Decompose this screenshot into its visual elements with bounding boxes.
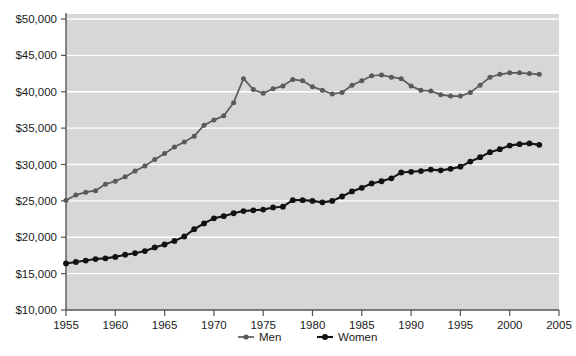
- data-point: [448, 166, 454, 172]
- y-tick-label: $10,000: [15, 304, 57, 316]
- legend-label: Women: [338, 331, 377, 343]
- data-point: [389, 75, 394, 80]
- data-point: [458, 164, 464, 170]
- data-point: [477, 154, 483, 160]
- data-point: [93, 188, 98, 193]
- data-point: [300, 197, 306, 203]
- data-point: [359, 78, 364, 83]
- data-point: [408, 169, 414, 175]
- data-point: [172, 145, 177, 150]
- data-point: [527, 71, 532, 76]
- data-point: [73, 259, 79, 265]
- y-tick-label: $25,000: [15, 195, 57, 207]
- x-tick-label: 1990: [398, 319, 424, 331]
- x-tick-label: 1965: [152, 319, 178, 331]
- x-tick-label: 1985: [349, 319, 375, 331]
- data-point: [290, 197, 296, 203]
- data-point: [468, 90, 473, 95]
- data-point: [221, 113, 226, 118]
- data-point: [300, 78, 305, 83]
- data-point: [507, 70, 512, 75]
- data-point: [497, 146, 503, 152]
- data-point: [349, 83, 354, 88]
- data-point: [438, 167, 444, 173]
- data-point: [260, 207, 266, 213]
- data-point: [527, 141, 533, 147]
- data-point: [211, 118, 216, 123]
- data-point: [467, 159, 473, 165]
- data-point: [507, 143, 513, 149]
- x-tick-label: 1975: [250, 319, 276, 331]
- data-point: [418, 88, 423, 93]
- y-tick-label: $30,000: [15, 159, 57, 171]
- data-point: [310, 198, 316, 204]
- data-point: [379, 73, 384, 78]
- data-point: [399, 76, 404, 81]
- data-point: [123, 174, 128, 179]
- data-point: [241, 208, 247, 214]
- data-point: [359, 185, 365, 191]
- y-tick-label: $15,000: [15, 268, 57, 280]
- data-point: [428, 167, 434, 173]
- chart-canvas: $10,000$15,000$20,000$25,000$30,000$35,0…: [0, 0, 576, 356]
- data-point: [320, 88, 325, 93]
- data-point: [192, 134, 197, 139]
- data-point: [152, 157, 157, 162]
- data-point: [201, 221, 207, 227]
- y-tick-label: $35,000: [15, 122, 57, 134]
- y-tick-label: $20,000: [15, 231, 57, 243]
- data-point: [132, 250, 138, 256]
- data-point: [369, 181, 375, 187]
- data-point: [487, 75, 492, 80]
- data-point: [329, 198, 335, 204]
- data-point: [83, 258, 89, 264]
- data-point: [478, 83, 483, 88]
- data-point: [261, 91, 266, 96]
- data-point: [162, 151, 167, 156]
- x-tick-label: 1955: [53, 319, 79, 331]
- data-point: [330, 91, 335, 96]
- data-point: [280, 204, 286, 210]
- data-point: [517, 141, 523, 147]
- data-point: [250, 207, 256, 213]
- data-point: [438, 92, 443, 97]
- data-point: [536, 142, 542, 148]
- legend-marker: [243, 334, 248, 339]
- data-point: [142, 163, 147, 168]
- data-point: [537, 72, 542, 77]
- x-tick-label: 2005: [546, 319, 572, 331]
- data-point: [339, 194, 345, 200]
- x-tick-label: 2000: [497, 319, 523, 331]
- data-point: [122, 252, 128, 258]
- data-point: [319, 199, 325, 205]
- data-point: [231, 210, 237, 216]
- x-tick-label: 1970: [201, 319, 227, 331]
- x-tick-label: 1980: [300, 319, 326, 331]
- y-tick-label: $50,000: [15, 13, 57, 25]
- data-point: [231, 100, 236, 105]
- data-point: [517, 70, 522, 75]
- data-point: [379, 178, 385, 184]
- data-point: [290, 77, 295, 82]
- data-point: [133, 169, 138, 174]
- data-point: [271, 86, 276, 91]
- data-point: [448, 94, 453, 99]
- data-point: [418, 168, 424, 174]
- y-tick-label: $40,000: [15, 86, 57, 98]
- data-point: [113, 179, 118, 184]
- y-tick-label: $45,000: [15, 49, 57, 61]
- plot-area-background: [66, 14, 559, 310]
- data-point: [103, 182, 108, 187]
- legend-marker: [322, 334, 328, 340]
- data-point: [310, 84, 315, 89]
- data-point: [280, 83, 285, 88]
- line-chart: $10,000$15,000$20,000$25,000$30,000$35,0…: [0, 0, 576, 356]
- data-point: [369, 73, 374, 78]
- data-point: [182, 139, 187, 144]
- data-point: [63, 261, 69, 267]
- data-point: [152, 245, 158, 251]
- data-point: [409, 83, 414, 88]
- data-point: [458, 94, 463, 99]
- data-point: [83, 190, 88, 195]
- data-point: [64, 198, 69, 203]
